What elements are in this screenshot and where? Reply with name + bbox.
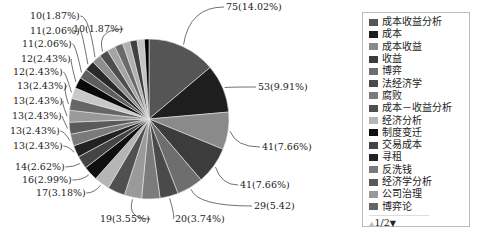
legend-swatch-icon bbox=[369, 105, 378, 112]
pie-slices bbox=[69, 39, 229, 199]
legend-item[interactable]: 公司治理 bbox=[369, 188, 469, 200]
data-label: 10(1.87%) bbox=[73, 23, 123, 34]
legend-label: 成本－收益分析 bbox=[382, 102, 452, 114]
data-label: 11(2.06%) bbox=[22, 38, 72, 49]
legend-swatch-icon bbox=[369, 19, 378, 26]
legend-item[interactable]: 制度变迁 bbox=[369, 127, 469, 139]
legend-item[interactable]: 腐败 bbox=[369, 90, 469, 102]
legend-swatch-icon bbox=[369, 68, 378, 75]
legend-swatch-icon bbox=[369, 92, 378, 99]
data-label: 19(3.55%) bbox=[100, 213, 150, 224]
data-label: 53(9.91%) bbox=[258, 81, 308, 92]
legend-item[interactable]: 经济分析 bbox=[369, 114, 469, 126]
leader-line bbox=[65, 164, 80, 167]
legend-item[interactable]: 反洗钱 bbox=[369, 164, 469, 176]
leader-line bbox=[63, 146, 74, 152]
data-label: 17(3.18%) bbox=[36, 187, 86, 198]
legend-swatch-icon bbox=[369, 179, 378, 186]
data-label: 13(2.43%) bbox=[13, 140, 63, 151]
legend-item[interactable]: 收益 bbox=[369, 53, 469, 65]
legend-swatch-icon bbox=[369, 80, 378, 87]
legend-label: 寻租 bbox=[382, 151, 402, 163]
legend-page-down-button[interactable]: ▼ bbox=[390, 219, 396, 228]
data-label: 41(7.66%) bbox=[240, 179, 290, 190]
legend-label: 腐败 bbox=[382, 90, 402, 102]
legend-swatch-icon bbox=[369, 142, 378, 149]
leader-line bbox=[230, 131, 260, 147]
leader-line bbox=[80, 31, 88, 64]
legend-label: 公司治理 bbox=[382, 188, 422, 200]
legend-swatch-icon bbox=[369, 43, 378, 50]
leader-line bbox=[72, 44, 81, 73]
leader-line bbox=[62, 116, 67, 128]
leader-line bbox=[86, 185, 100, 193]
data-label: 12(2.43%) bbox=[13, 66, 63, 77]
leader-line bbox=[71, 59, 76, 82]
legend-item[interactable]: 经济学分析 bbox=[369, 176, 469, 188]
legend-swatch-icon bbox=[369, 31, 378, 38]
legend-label: 成本收益 bbox=[382, 41, 422, 53]
data-label: 12(2.43%) bbox=[21, 53, 71, 64]
leader-line bbox=[191, 189, 252, 206]
legend-item[interactable]: 博弈论 bbox=[369, 200, 469, 212]
legend-item[interactable]: 博弈 bbox=[369, 65, 469, 77]
leader-line bbox=[72, 175, 88, 180]
data-label: 13(2.43%) bbox=[13, 95, 63, 106]
legend-item[interactable]: 成本收益分析 bbox=[369, 16, 469, 28]
legend-item[interactable]: 交易成本 bbox=[369, 139, 469, 151]
legend-label: 法经济学 bbox=[382, 78, 422, 90]
data-label: 75(14.02%) bbox=[226, 1, 282, 12]
legend-label: 经济分析 bbox=[382, 115, 422, 127]
legend-item[interactable]: 成本－收益分析 bbox=[369, 102, 469, 114]
leader-line bbox=[63, 101, 67, 116]
legend-pager: ▲1/2▼ bbox=[369, 215, 429, 228]
legend-swatch-icon bbox=[369, 129, 378, 136]
data-label: 13(2.43%) bbox=[12, 110, 62, 121]
leader-line bbox=[170, 198, 174, 219]
legend-item[interactable]: 法经济学 bbox=[369, 77, 469, 89]
leader-line bbox=[215, 167, 238, 185]
legend-label: 制度变迁 bbox=[382, 127, 422, 139]
legend-label: 博弈 bbox=[382, 65, 402, 77]
data-label: 16(2.99%) bbox=[22, 174, 72, 185]
legend-label: 博弈论 bbox=[382, 201, 412, 213]
legend-label: 交易成本 bbox=[382, 139, 422, 151]
legend: 成本收益分析成本成本收益收益博弈法经济学腐败成本－收益分析经济分析制度变迁交易成… bbox=[362, 12, 470, 227]
legend-swatch-icon bbox=[369, 203, 378, 210]
legend-swatch-icon bbox=[369, 154, 378, 161]
legend-swatch-icon bbox=[369, 117, 378, 124]
legend-swatch-icon bbox=[369, 166, 378, 173]
legend-page-indicator: 1/2 bbox=[374, 217, 389, 228]
data-label: 10(1.87%) bbox=[30, 10, 80, 21]
legend-item[interactable]: 寻租 bbox=[369, 151, 469, 163]
data-label: 41(7.66%) bbox=[262, 141, 312, 152]
data-label: 13(2.43%) bbox=[10, 125, 60, 136]
data-label: 14(2.62%) bbox=[15, 161, 65, 172]
leader-line bbox=[184, 7, 224, 45]
legend-label: 经济学分析 bbox=[382, 176, 432, 188]
data-label: 29(5.42) bbox=[254, 200, 295, 211]
data-label: 13(2.43%) bbox=[17, 80, 67, 91]
legend-swatch-icon bbox=[369, 56, 378, 63]
leader-line bbox=[225, 87, 256, 88]
legend-label: 成本收益分析 bbox=[382, 16, 442, 28]
legend-label: 反洗钱 bbox=[382, 164, 412, 176]
legend-item[interactable]: 成本收益 bbox=[369, 41, 469, 53]
legend-label: 收益 bbox=[382, 53, 402, 65]
data-label: 20(3.74%) bbox=[175, 213, 225, 224]
pie-chart: 75(14.02%)53(9.91%)41(7.66%)41(7.66%)29(… bbox=[0, 0, 362, 243]
legend-label: 成本 bbox=[382, 28, 402, 40]
legend-swatch-icon bbox=[369, 191, 378, 198]
legend-item[interactable]: 成本 bbox=[369, 28, 469, 40]
